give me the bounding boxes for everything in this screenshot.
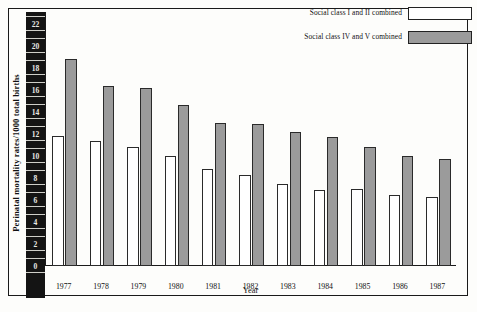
bar-group-1981	[202, 12, 227, 266]
y-tick-10: 10	[26, 148, 45, 163]
bar-group-1987	[426, 12, 451, 266]
bar-group-1986	[389, 12, 414, 266]
bar-group-1984	[314, 12, 339, 266]
y-tick-12: 12	[26, 126, 45, 141]
bar-1981-series-2	[215, 123, 227, 266]
bar-1978-series-1	[90, 141, 102, 266]
bar-group-1985	[351, 12, 376, 266]
y-tick-14: 14	[26, 104, 45, 119]
bar-1983-series-1	[277, 184, 289, 267]
bar-group-1979	[127, 12, 152, 266]
y-tick-18: 18	[26, 60, 45, 75]
y-tick-8: 8	[26, 170, 45, 185]
bar-group-1980	[165, 12, 190, 266]
bar-group-1977	[52, 12, 77, 266]
bar-1979-series-1	[127, 147, 139, 266]
bar-1977-series-1	[52, 136, 64, 266]
y-axis-tick-band: 0246810121416182022	[26, 12, 45, 298]
bar-1982-series-1	[239, 175, 251, 266]
bar-1980-series-1	[165, 156, 177, 266]
bar-1977-series-2	[65, 59, 77, 266]
bar-1978-series-2	[103, 86, 115, 266]
bar-1985-series-2	[364, 147, 376, 266]
y-tick-2: 2	[26, 236, 45, 251]
bar-1987-series-1	[426, 197, 438, 266]
bar-group-1982	[239, 12, 264, 266]
bar-1987-series-2	[439, 159, 451, 266]
y-axis-title: Perinatal mortality rates/1000 total bir…	[11, 53, 21, 253]
y-tick-20: 20	[26, 38, 45, 53]
y-tick-6: 6	[26, 192, 45, 207]
bar-group-1983	[277, 12, 302, 266]
bar-1982-series-2	[252, 124, 264, 266]
x-axis-title: Year	[45, 286, 456, 295]
bar-1983-series-2	[290, 132, 302, 266]
chart-figure: Social class I and II combined Social cl…	[0, 0, 477, 312]
bar-1986-series-2	[402, 156, 414, 266]
bar-1984-series-1	[314, 190, 326, 266]
y-tick-0: 0	[26, 258, 45, 273]
y-tick-16: 16	[26, 82, 45, 97]
bar-1984-series-2	[327, 137, 339, 266]
bar-1986-series-1	[389, 195, 401, 267]
bar-1979-series-2	[140, 88, 152, 266]
bar-1981-series-1	[202, 169, 214, 266]
y-tick-22: 22	[26, 16, 45, 31]
y-tick-4: 4	[26, 214, 45, 229]
bar-group-1978	[90, 12, 115, 266]
plot-area: 1977197819791980198119821983198419851986…	[45, 12, 456, 266]
bar-1980-series-2	[178, 105, 190, 266]
bar-1985-series-1	[351, 189, 363, 266]
